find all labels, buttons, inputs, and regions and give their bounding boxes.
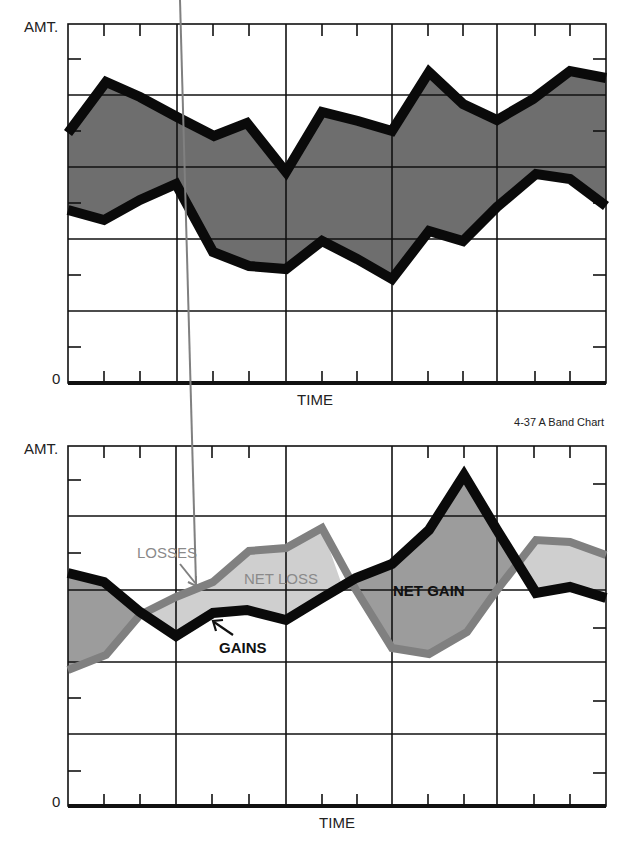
net-gain-area-middle bbox=[343, 475, 515, 654]
top-band-chart: AMT. 0 TIME 4-37 A Band Chart bbox=[24, 18, 606, 428]
axis-ticks bbox=[68, 446, 606, 806]
net-loss-annotation: NET LOSS bbox=[244, 570, 318, 587]
gains-annotation: GAINS bbox=[219, 639, 267, 656]
losses-arrow-icon bbox=[180, 0, 196, 586]
y-axis-label: AMT. bbox=[24, 18, 58, 35]
band-chart-figure: AMT. 0 TIME 4-37 A Band Chart bbox=[0, 0, 632, 853]
net-gain-annotation: NET GAIN bbox=[393, 582, 465, 599]
x-axis-label: TIME bbox=[319, 814, 355, 831]
grid-lines bbox=[68, 446, 606, 806]
y-zero-label: 0 bbox=[52, 370, 60, 387]
y-axis-label: AMT. bbox=[24, 440, 58, 457]
losses-annotation: LOSSES bbox=[137, 544, 197, 561]
y-zero-label: 0 bbox=[52, 793, 60, 810]
x-axis-label: TIME bbox=[297, 391, 333, 408]
gains-arrow-icon bbox=[213, 620, 233, 635]
figure-caption: 4-37 A Band Chart bbox=[514, 416, 604, 428]
